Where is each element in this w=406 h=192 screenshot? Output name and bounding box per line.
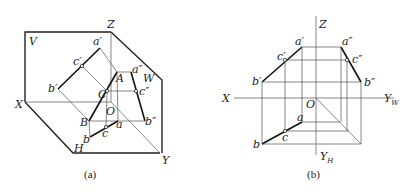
label-a-v: a′: [295, 35, 305, 48]
label-axis-x: X: [14, 98, 24, 111]
label-b-w: b″: [145, 115, 157, 128]
label-c-h: c: [282, 131, 288, 144]
label-origin: O: [106, 105, 115, 118]
point-c-w: [345, 58, 348, 61]
label-axis-y: Y: [162, 154, 171, 167]
label-b-h: b: [83, 133, 90, 146]
label-axis-yw: YW: [384, 92, 399, 107]
label-c-v: c′: [277, 50, 286, 63]
label-c-v: c′: [73, 55, 82, 68]
label-axis-yh: YH: [320, 150, 334, 165]
label-a-w: a″: [342, 35, 354, 48]
label-a-v: a′: [93, 35, 103, 48]
label-c-w: c″: [352, 53, 363, 66]
label-A: A: [115, 72, 124, 85]
label-yw-sub: W: [391, 99, 399, 107]
label-plane-w: W: [143, 72, 156, 85]
caption-b: (b): [307, 168, 320, 181]
label-b-h: b: [253, 138, 260, 151]
label-c-w: c″: [139, 85, 150, 98]
label-c-h: c: [102, 127, 108, 140]
label-axis-x: X: [221, 92, 231, 105]
caption-a: (a): [84, 168, 97, 181]
label-axis-z: Z: [318, 18, 327, 31]
label-plane-v: V: [29, 35, 38, 48]
figure-a-pictorial: V H W Z X Y O a′ c′ b′ A C B a″ c″ b″ a …: [14, 18, 171, 181]
point-c-w: [134, 89, 137, 92]
label-axis-z: Z: [106, 18, 115, 31]
label-b-v: b′: [252, 75, 262, 88]
label-B: B: [79, 116, 88, 129]
projection-diagram: V H W Z X Y O a′ c′ b′ A C B a″ c″ b″ a …: [0, 0, 406, 192]
label-b-w: b″: [364, 76, 376, 89]
miter-line: [316, 98, 361, 144]
diagram-svg: V H W Z X Y O a′ c′ b′ A C B a″ c″ b″ a …: [0, 0, 406, 192]
label-yh-sub: H: [326, 157, 334, 165]
label-a-h: a: [116, 118, 123, 131]
h-plane-frame: [25, 102, 160, 153]
label-a-h: a: [297, 111, 304, 124]
label-C: C: [98, 88, 107, 101]
figure-b-orthographic: Z X O YW YH a′ c′ b′ a″ c″ b″ a c b (b): [221, 16, 399, 181]
label-a-w: a″: [132, 63, 144, 76]
projector-a-v: [100, 48, 117, 72]
label-origin: O: [306, 98, 315, 111]
label-b-v: b′: [48, 82, 58, 95]
